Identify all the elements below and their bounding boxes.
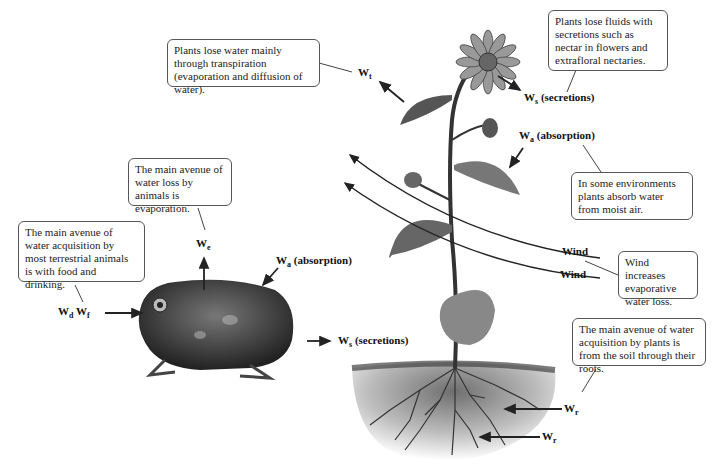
callout-animal-acquisition: The main avenue of water acquisition by …: [18, 221, 145, 282]
plant-absorption-arrow: [510, 148, 523, 167]
label-w-animal-secretions: Ws (secretions): [338, 334, 408, 349]
label-w-plant-secretions: Ws (secretions): [524, 91, 594, 106]
label-w-transpiration: Wt: [358, 66, 372, 81]
wind-arrow-lower: [345, 183, 600, 278]
label-w-animal-absorption: Wa (absorption): [276, 254, 352, 269]
label-w-roots-upper: Wr: [564, 402, 579, 417]
label-w-plant-absorption: Wa (absorption): [519, 129, 595, 144]
callout-animal-evaporation: The main avenue of water loss by animals…: [128, 158, 232, 206]
toad-illustration: [139, 280, 293, 378]
callout-wind: Wind increases evaporative water loss.: [618, 251, 698, 299]
label-w-evaporation: We: [196, 237, 211, 252]
label-wind-upper: Wind: [562, 245, 588, 257]
soil-illustration: [352, 362, 555, 461]
callout-plant-roots: The main avenue of water acquisition by …: [572, 318, 706, 366]
label-w-roots-lower: Wr: [542, 430, 557, 445]
animal-absorption-arrow: [263, 268, 278, 285]
label-wind-lower: Wind: [560, 268, 586, 280]
label-w-drinking-food: Wd Wf: [58, 305, 90, 320]
sunflower-plant-illustration: [389, 30, 520, 368]
transpiration-arrow: [380, 82, 404, 102]
callout-plant-absorption: In some environments plants absorb water…: [571, 172, 693, 220]
callout-transpiration: Plants lose water mainly through transpi…: [167, 39, 320, 87]
callout-plant-secretions: Plants lose fluids with secretions such …: [548, 10, 668, 71]
